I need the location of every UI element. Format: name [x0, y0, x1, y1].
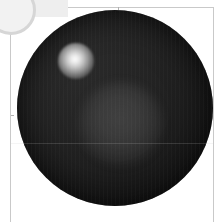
axis-right: [213, 7, 214, 222]
sphere-render-viewport: [0, 0, 223, 222]
sphere-body: [17, 10, 213, 206]
render-stage: [11, 8, 213, 222]
